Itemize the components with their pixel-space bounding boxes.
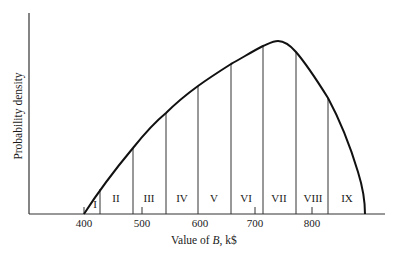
region-dividers xyxy=(100,46,328,214)
x-tick-600: 600 xyxy=(192,217,209,229)
x-tick-labels: 400 500 600 700 800 xyxy=(76,217,321,229)
region-label-IX: IX xyxy=(341,192,353,204)
region-label-IV: IV xyxy=(176,192,188,204)
region-label-VIII: VIII xyxy=(304,192,323,204)
region-label-V: V xyxy=(210,192,218,204)
x-tick-500: 500 xyxy=(134,217,151,229)
density-curve xyxy=(84,41,365,214)
x-tick-700: 700 xyxy=(247,217,264,229)
region-label-II: II xyxy=(112,192,120,204)
x-axis-title: Value of B, k$ xyxy=(171,234,237,247)
x-tick-800: 800 xyxy=(304,217,321,229)
y-axis-title: Probability density xyxy=(12,72,25,159)
probability-density-chart: I II III IV V VI VII VIII IX 400 500 600… xyxy=(0,0,409,253)
x-tick-400: 400 xyxy=(76,217,93,229)
region-label-VI: VI xyxy=(240,192,252,204)
region-label-I: I xyxy=(93,198,97,210)
region-labels: I II III IV V VI VII VIII IX xyxy=(93,192,353,210)
region-label-VII: VII xyxy=(271,192,287,204)
region-label-III: III xyxy=(144,192,155,204)
